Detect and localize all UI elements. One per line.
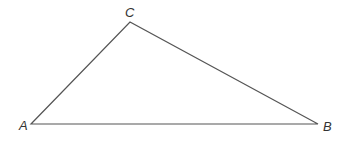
triangle-svg: A B C xyxy=(0,0,347,142)
vertex-label-a: A xyxy=(18,118,28,133)
triangle-diagram: A B C xyxy=(0,0,347,142)
vertex-label-c: C xyxy=(125,5,135,20)
triangle-abc xyxy=(31,22,318,124)
vertex-label-b: B xyxy=(323,119,332,134)
